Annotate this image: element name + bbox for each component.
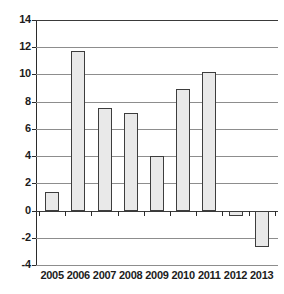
y-axis-label: -2 <box>3 232 31 243</box>
y-axis-tick <box>32 129 36 130</box>
y-axis-label: 14 <box>3 14 31 25</box>
y-axis-tick <box>32 74 36 75</box>
y-axis-tick <box>32 20 36 21</box>
bar <box>150 156 164 210</box>
gridline <box>36 47 278 48</box>
gridline <box>36 265 278 266</box>
x-axis-tick <box>118 211 119 216</box>
bar <box>202 72 216 210</box>
bar <box>71 51 85 210</box>
y-axis-labels: 14121086420-2-4 <box>0 0 31 294</box>
x-axis-tick <box>170 211 171 216</box>
y-axis-tick <box>32 183 36 184</box>
bar <box>176 89 190 210</box>
y-axis-label: 6 <box>3 123 31 134</box>
bar <box>124 113 138 211</box>
y-axis-tick <box>32 156 36 157</box>
y-axis-label: 4 <box>3 150 31 161</box>
x-axis-tick <box>144 211 145 216</box>
y-axis-label: 0 <box>3 205 31 216</box>
y-axis-tick <box>32 211 36 212</box>
bar <box>229 211 243 216</box>
y-axis-label: 8 <box>3 96 31 107</box>
bar-chart: 14121086420-2-4 200520062007200820092010… <box>0 0 284 294</box>
x-axis-tick <box>39 211 40 216</box>
x-axis-tick <box>249 211 250 216</box>
y-axis-tick <box>32 47 36 48</box>
bar <box>255 211 269 248</box>
y-axis-label: -4 <box>3 259 31 270</box>
y-axis-tick <box>32 238 36 239</box>
y-axis-label: 12 <box>3 41 31 52</box>
y-axis-tick <box>32 102 36 103</box>
y-axis-label: 2 <box>3 177 31 188</box>
plot-area <box>36 20 278 265</box>
x-axis-tick <box>91 211 92 216</box>
x-axis-tick <box>222 211 223 216</box>
gridline <box>36 238 278 239</box>
gridline <box>36 20 278 21</box>
y-axis-tick <box>32 265 36 266</box>
bar <box>45 192 59 211</box>
x-axis-tick <box>275 211 276 216</box>
x-axis-label: 2013 <box>246 270 278 281</box>
x-axis-tick <box>196 211 197 216</box>
bar <box>98 108 112 210</box>
x-axis-tick <box>65 211 66 216</box>
y-axis-label: 10 <box>3 68 31 79</box>
